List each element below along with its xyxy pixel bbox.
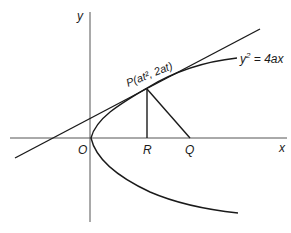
- origin-label: O: [78, 143, 87, 157]
- point-r-label: R: [143, 143, 152, 157]
- equation-rhs: = 4ax: [250, 52, 284, 66]
- point-q-label: Q: [185, 143, 194, 157]
- parabola-curve: [91, 58, 238, 213]
- svg-text:P(at², 2at): P(at², 2at): [124, 59, 174, 89]
- parabola-diagram: y x O R Q P(at², 2at) y2 = 4ax: [0, 0, 291, 233]
- normal-pq: [147, 89, 190, 138]
- point-p-label: P(at², 2at): [124, 59, 174, 89]
- x-axis-label: x: [278, 141, 286, 155]
- point-p-coords: (at², 2at): [131, 59, 174, 86]
- y-axis-label: y: [76, 9, 84, 23]
- tangent-line: [15, 29, 260, 158]
- curve-equation-label: y2 = 4ax: [239, 51, 284, 66]
